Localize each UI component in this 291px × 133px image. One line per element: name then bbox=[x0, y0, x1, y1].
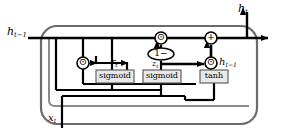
label-h-t-output: ht bbox=[238, 3, 248, 14]
candidate-multiply-icon: ⊙ bbox=[205, 57, 217, 67]
label-candidate-state: ht−1 bbox=[219, 57, 237, 67]
one-minus-label: 1− bbox=[148, 49, 174, 58]
forget-multiply-icon: ⊙ bbox=[155, 32, 167, 42]
label-h-prev-input: ht−1 bbox=[7, 26, 27, 37]
label-reset-gate: rt bbox=[111, 58, 118, 67]
gate-label-candidate[interactable]: tanh bbox=[200, 72, 228, 80]
label-update-gate: zt bbox=[152, 60, 158, 68]
label-x-t-input: xt bbox=[48, 113, 56, 123]
state-add-icon: + bbox=[205, 32, 217, 42]
reset-multiply-icon: ⊙ bbox=[77, 57, 89, 67]
gate-input-bus bbox=[112, 83, 214, 100]
gru-diagram-svg bbox=[0, 0, 291, 133]
gate-label-reset[interactable]: sigmoid bbox=[96, 72, 134, 80]
gru-diagram-canvas: ht−1 ht xt rt zt ht−1 sigmoid sigmoid ta… bbox=[0, 0, 291, 133]
reset-gate-feedback bbox=[90, 56, 128, 70]
gate-label-update[interactable]: sigmoid bbox=[143, 72, 181, 80]
